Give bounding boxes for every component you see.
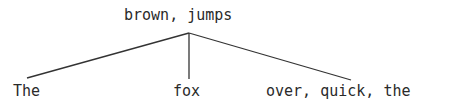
- child-node-label-the: The: [13, 82, 40, 100]
- child-node-label-over-quick-the: over, quick, the: [266, 82, 411, 100]
- root-node-label: brown, jumps: [124, 6, 232, 24]
- edge-root-to-the: [27, 33, 189, 78]
- tree-diagram: brown, jumps The fox over, quick, the: [0, 0, 454, 108]
- child-node-label-fox: fox: [173, 82, 200, 100]
- edge-root-to-over-quick-the: [189, 33, 351, 80]
